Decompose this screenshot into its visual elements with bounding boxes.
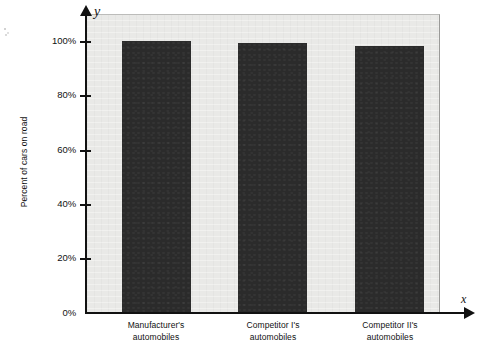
chart-figure: y x 100% 80% 60% 40% 20% 0% Percent of c… [0, 0, 493, 358]
y-axis-line [85, 14, 87, 314]
category-label-line-1: Manufacturer's [96, 320, 216, 332]
y-tick-label-0: 0% [40, 307, 76, 318]
category-label-line-2: automobiles [330, 332, 450, 344]
y-tick-label-60: 60% [40, 144, 76, 155]
category-label-line-2: automobiles [213, 332, 333, 344]
y-tick-mark-80 [80, 95, 91, 97]
bar-manufacturers-automobiles [122, 41, 191, 313]
y-tick-mark-40 [80, 204, 91, 206]
category-label-line-2: automobiles [96, 332, 216, 344]
y-tick-label-20: 20% [40, 252, 76, 263]
y-axis-letter: y [94, 4, 100, 20]
y-tick-label-100: 100% [40, 35, 76, 46]
x-category-label-manufacturers: Manufacturer's automobiles [96, 320, 216, 343]
bar-competitor-i-automobiles [238, 43, 307, 313]
bar-competitor-ii-automobiles [355, 46, 424, 313]
scan-speckle-artifact [4, 28, 11, 37]
x-axis-letter: x [461, 292, 466, 307]
y-tick-mark-100 [80, 41, 91, 43]
x-axis-line [85, 312, 465, 314]
y-tick-label-80: 80% [40, 89, 76, 100]
x-axis-arrow-icon [464, 307, 475, 319]
y-tick-mark-60 [80, 150, 91, 152]
x-category-label-competitor-i: Competitor I's automobiles [213, 320, 333, 343]
y-tick-mark-20 [80, 258, 91, 260]
category-label-line-1: Competitor II's [330, 320, 450, 332]
y-axis-arrow-icon [80, 5, 92, 16]
x-category-label-competitor-ii: Competitor II's automobiles [330, 320, 450, 343]
y-axis-title: Percent of cars on road [19, 102, 29, 222]
category-label-line-1: Competitor I's [213, 320, 333, 332]
y-tick-label-40: 40% [40, 198, 76, 209]
